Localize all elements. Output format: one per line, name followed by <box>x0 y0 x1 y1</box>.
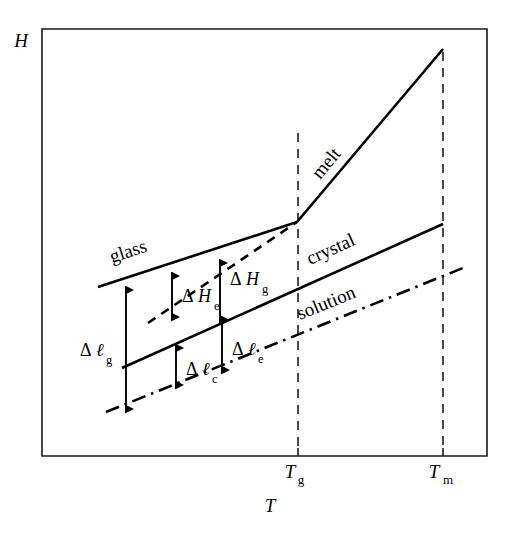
delta-l-e-sub: e <box>258 352 264 366</box>
y-axis-label: H <box>13 30 29 51</box>
curve-label-glass: glass <box>107 235 150 267</box>
curve-label-crystal: crystal <box>303 229 358 269</box>
delta-l-g-text: Δ <box>80 340 92 360</box>
label-delta-l-g: Δ ℓ g <box>80 340 113 367</box>
enthalpy-temperature-diagram: H T T g T m glass melt crystal solution … <box>0 0 510 537</box>
curve-solution <box>106 268 463 412</box>
tick-label-tg: T g <box>285 461 305 487</box>
tick-label-tm-sub: m <box>443 472 453 487</box>
label-delta-l-c: Δ ℓ c <box>186 359 218 386</box>
curve-melt <box>297 49 443 222</box>
plot-frame <box>42 29 487 456</box>
delta-H-g-delta: Δ <box>230 269 242 289</box>
label-delta-l-e: Δ ℓ e <box>232 339 264 366</box>
delta-l-c-sub: c <box>212 372 218 386</box>
delta-H-g-sub: g <box>262 282 269 296</box>
label-delta-H-g: Δ H g <box>230 269 269 296</box>
tick-label-tm-base: T <box>429 461 441 482</box>
delta-l-e-base: ℓ <box>248 339 256 359</box>
tick-label-tg-sub: g <box>298 472 305 487</box>
delta-l-c-delta: Δ <box>186 359 198 379</box>
delta-H-e-base: H <box>197 286 212 306</box>
tick-label-tg-base: T <box>285 461 297 482</box>
tick-label-tm: T m <box>429 461 453 487</box>
delta-l-g-base: ℓ <box>96 340 104 360</box>
delta-l-g-sub: g <box>106 353 113 367</box>
frame-rectangle <box>42 29 487 456</box>
curve-label-melt: melt <box>307 143 345 183</box>
curve-supercooled-liquid <box>148 222 297 323</box>
x-axis-label: T <box>265 495 277 516</box>
curve-crystal <box>122 224 443 368</box>
delta-H-e-delta: Δ <box>182 286 194 306</box>
delta-l-c-base: ℓ <box>202 359 210 379</box>
diagram-canvas: H T T g T m glass melt crystal solution … <box>0 0 510 537</box>
delta-H-g-base: H <box>245 269 260 289</box>
label-delta-H-e: Δ H e <box>182 286 220 313</box>
delta-l-e-delta: Δ <box>232 339 244 359</box>
